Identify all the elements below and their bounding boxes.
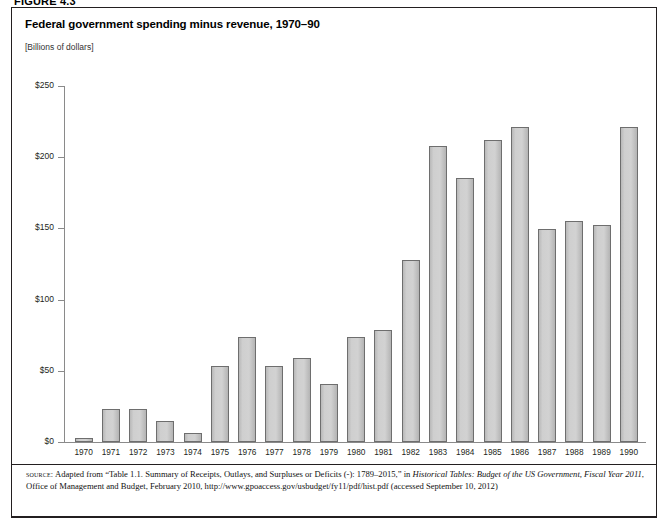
bar-1984 bbox=[456, 178, 474, 442]
bar-1981 bbox=[374, 330, 392, 442]
y-tick-label: $200 bbox=[8, 151, 54, 161]
y-tick-label: $50 bbox=[8, 365, 54, 375]
bar-1977 bbox=[265, 366, 283, 442]
bar-1988 bbox=[565, 221, 583, 442]
bar-1971 bbox=[102, 409, 120, 442]
bar-1983 bbox=[429, 146, 447, 442]
bar-1976 bbox=[238, 337, 256, 442]
y-tick-label: $100 bbox=[8, 294, 54, 304]
y-tick-label: $0 bbox=[8, 436, 54, 446]
chart-units-label: [Billions of dollars] bbox=[25, 42, 94, 52]
source-divider-top bbox=[12, 464, 656, 465]
bar-1975 bbox=[211, 366, 229, 442]
figure-number: FIGURE 4.3 bbox=[14, 0, 76, 7]
bar-1972 bbox=[129, 409, 147, 442]
x-tick-label-1990: 1990 bbox=[609, 447, 649, 457]
bar-1990 bbox=[620, 127, 638, 442]
bar-1989 bbox=[593, 225, 611, 442]
bar-1978 bbox=[293, 358, 311, 442]
source-note: source: Adapted from “Table 1.1. Summary… bbox=[26, 469, 644, 492]
bar-1973 bbox=[156, 421, 174, 442]
y-tick-label: $150 bbox=[8, 222, 54, 232]
bar-1985 bbox=[484, 140, 502, 442]
y-tick-mark bbox=[58, 442, 65, 443]
source-italic-title: Historical Tables: Budget of the US Gove… bbox=[413, 469, 642, 479]
bar-1974 bbox=[184, 433, 202, 442]
page-title: Federal government spending minus revenu… bbox=[25, 18, 320, 30]
bar-1982 bbox=[402, 260, 420, 442]
bar-1980 bbox=[347, 337, 365, 442]
bar-1970 bbox=[75, 438, 93, 442]
source-divider-bottom bbox=[12, 516, 656, 517]
source-text-1: Adapted from “Table 1.1. Summary of Rece… bbox=[53, 469, 412, 479]
y-tick-label: $250 bbox=[8, 80, 54, 90]
x-axis-line bbox=[64, 442, 646, 443]
bar-1979 bbox=[320, 384, 338, 442]
bar-series bbox=[64, 86, 646, 442]
bar-1987 bbox=[538, 229, 556, 442]
source-label: source: bbox=[26, 470, 53, 479]
bar-1986 bbox=[511, 127, 529, 442]
